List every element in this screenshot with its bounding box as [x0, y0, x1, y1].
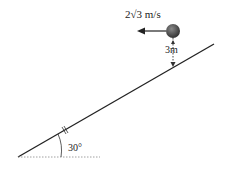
incline-line: [18, 44, 214, 157]
diagram-canvas: [0, 0, 231, 171]
ball-icon: [166, 24, 180, 38]
arrow-head-icon: [137, 28, 145, 35]
height-label: 3m: [165, 44, 178, 55]
angle-label: 30°: [68, 142, 82, 153]
angle-arc: [58, 134, 62, 157]
velocity-label: 2√3 m/s: [125, 8, 161, 20]
